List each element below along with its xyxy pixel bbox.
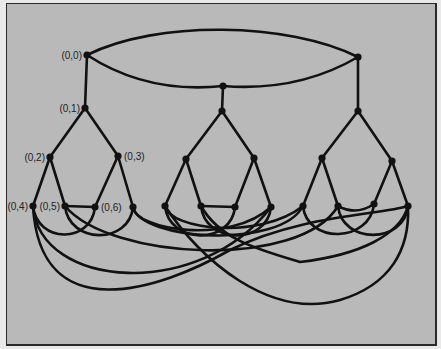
node-n01	[81, 104, 88, 111]
edge-n03-n07	[118, 156, 133, 207]
edge-n00-m0	[87, 55, 223, 87]
node-label-n01: (0,1)	[59, 103, 80, 114]
node-label-n04: (0,4)	[7, 201, 28, 212]
node-m1	[218, 107, 225, 114]
edge-n01-n02	[50, 108, 85, 157]
edge-r1-r3	[358, 111, 392, 161]
edge-m5-m6	[201, 206, 235, 207]
edge-m2-m5	[186, 159, 201, 206]
node-m3	[250, 154, 257, 161]
edge-n03-n06	[95, 156, 118, 207]
node-r2	[318, 154, 325, 161]
edge-r2-r4	[303, 158, 322, 206]
node-label-n03: (0,3)	[124, 151, 145, 162]
node-m2	[182, 155, 189, 162]
edge-r1-r2	[322, 111, 358, 158]
edges-layer	[33, 30, 408, 304]
node-m0	[219, 82, 226, 89]
edge-n05-n06	[65, 206, 95, 207]
node-r0	[354, 53, 361, 60]
node-n07	[129, 203, 136, 210]
node-n00	[83, 51, 90, 58]
edge-r2-r5	[322, 158, 338, 206]
edge-m1-m2	[186, 111, 222, 159]
edge-n01-n03	[85, 108, 118, 156]
edge-r5-r6	[338, 204, 374, 211]
edge-n00-n01	[85, 55, 87, 108]
node-r5	[334, 202, 341, 209]
edge-n02-n04	[33, 157, 50, 206]
node-n06	[91, 203, 98, 210]
node-n05	[61, 202, 68, 209]
node-n03	[114, 152, 121, 159]
graph-diagram: (0,0)(0,1)(0,2)(0,3)(0,4)(0,5)(0,6)	[0, 0, 441, 349]
node-label-n00: (0,0)	[61, 50, 82, 61]
node-m6	[231, 203, 238, 210]
edge-r3-r6	[374, 161, 392, 204]
node-label-n06: (0,6)	[101, 202, 122, 213]
edge-n02-n05	[50, 157, 65, 206]
edge-m0-m1	[222, 86, 223, 111]
node-r6	[370, 200, 377, 207]
edge-n04-r7	[33, 206, 408, 290]
node-m7	[267, 203, 274, 210]
edge-r3-r7	[392, 161, 408, 206]
node-label-n02: (0,2)	[24, 152, 45, 163]
edge-m2-m4	[165, 159, 186, 206]
node-r4	[299, 202, 306, 209]
node-r7	[404, 202, 411, 209]
node-label-n05: (0,5)	[39, 201, 60, 212]
node-r1	[354, 107, 361, 114]
node-n02	[46, 153, 53, 160]
edge-m0-r0	[223, 57, 358, 87]
node-m5	[197, 202, 204, 209]
edge-m3-m7	[254, 158, 271, 207]
node-m4	[161, 202, 168, 209]
node-n04	[29, 202, 36, 209]
node-r3	[388, 157, 395, 164]
edge-m1-m3	[222, 111, 254, 158]
edge-m3-m6	[235, 158, 254, 207]
edge-n00-r0	[87, 30, 358, 57]
